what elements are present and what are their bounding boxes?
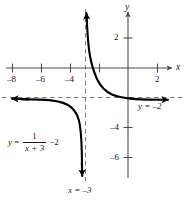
y-axis-label: y [125, 3, 129, 13]
equation-equals: = [14, 138, 19, 147]
equation-numerator: 1 [29, 132, 40, 142]
vertical-asymptote-label: x = –3 [68, 186, 92, 195]
horizontal-asymptote-label: y = –2 [138, 102, 162, 111]
equation-fraction: 1 x + 3 [23, 132, 46, 153]
curve-right-branch-top-arrow [86, 13, 87, 22]
x-axis-label: x [176, 63, 180, 73]
y-tick-label-neg4: –4 [110, 123, 119, 132]
curve-right-branch [87, 15, 168, 100]
x-tick-label-neg8: –8 [7, 75, 16, 84]
equation-label: y = 1 x + 3 −2 [8, 132, 59, 153]
y-tick-label-neg6: –6 [110, 153, 119, 162]
y-tick-label-pos2: 2 [114, 33, 119, 42]
x-tick-label-neg6: –6 [36, 75, 45, 84]
equation-tail: −2 [49, 138, 59, 147]
equation-denominator: x + 3 [23, 143, 46, 153]
x-tick-label-neg4: –4 [65, 75, 74, 84]
curve-left-branch-end-arrow [12, 99, 28, 100]
equation-lhs: y [8, 138, 12, 147]
graph-figure: –8 –6 –4 2 2 –4 –6 x y y = –2 x = –3 y =… [0, 0, 188, 200]
x-tick-label-pos2: 2 [155, 75, 160, 84]
function-plot [0, 0, 188, 200]
